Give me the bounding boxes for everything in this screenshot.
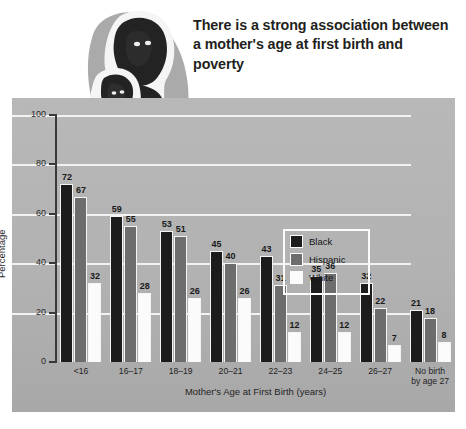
legend-item-hispanic: Hispanic — [290, 253, 368, 266]
bar-slot: 55 — [124, 115, 137, 362]
bar-white: 26 — [188, 298, 201, 362]
bar-value-label: 72 — [62, 172, 72, 182]
bar-group: 454026 — [206, 115, 256, 362]
page-title: There is a strong association between a … — [193, 16, 455, 74]
bar-white: 32 — [88, 283, 101, 362]
y-tick-0 — [49, 361, 56, 363]
bar-hispanic: 51 — [174, 236, 187, 362]
y-tick-label-100: 100 — [16, 109, 46, 119]
bar-black: 72 — [60, 184, 73, 362]
bar-value-label: 51 — [176, 224, 186, 234]
bar-white: 12 — [288, 332, 301, 362]
bar-value-label: 12 — [289, 320, 299, 330]
bar-value-label: 8 — [442, 330, 447, 340]
bar-value-label: 18 — [425, 306, 435, 316]
bar-slot: 21 — [410, 115, 423, 362]
bar-group: 21188 — [405, 115, 455, 362]
bar-white: 12 — [338, 332, 351, 362]
bar-value-label: 21 — [411, 298, 421, 308]
bar-group: 726732 — [56, 115, 106, 362]
legend-swatch-black-icon — [290, 235, 303, 248]
legend-label-hispanic: Hispanic — [309, 254, 345, 265]
y-tick-label-80: 80 — [16, 158, 46, 168]
y-tick-60 — [49, 213, 56, 215]
y-tick-40 — [49, 262, 56, 264]
bar-value-label: 43 — [261, 244, 271, 254]
y-tick-label-20: 20 — [16, 307, 46, 317]
bar-group: 535126 — [156, 115, 206, 362]
bar-slot: 26 — [238, 115, 251, 362]
y-axis-title: Percentage — [0, 229, 7, 278]
bar-hispanic: 67 — [74, 197, 87, 362]
bar-black: 53 — [160, 231, 173, 362]
y-tick-20 — [49, 312, 56, 314]
bar-value-label: 26 — [240, 286, 250, 296]
bar-slot: 45 — [210, 115, 223, 362]
chart-panel: 100 80 60 40 20 0 Percentage 72673259552… — [12, 98, 455, 412]
bar-slot: 53 — [160, 115, 173, 362]
legend-swatch-white-icon — [290, 271, 303, 284]
bar-value-label: 28 — [140, 281, 150, 291]
y-tick-label-60: 60 — [16, 208, 46, 218]
bar-slot: 28 — [138, 115, 151, 362]
y-tick-label-0: 0 — [16, 356, 46, 366]
legend-label-white: White — [309, 272, 333, 283]
bar-value-label: 53 — [162, 219, 172, 229]
bar-slot: 22 — [374, 115, 387, 362]
bar-white: 26 — [238, 298, 251, 362]
x-axis-title: Mother's Age at First Birth (years) — [56, 386, 455, 397]
legend-item-white: White — [290, 271, 368, 284]
legend: Black Hispanic White — [283, 229, 370, 295]
y-tick-label-40: 40 — [16, 257, 46, 267]
y-tick-100 — [49, 114, 56, 116]
bar-black: 21 — [410, 310, 423, 362]
bar-slot: 8 — [438, 115, 451, 362]
bar-slot: 59 — [110, 115, 123, 362]
bar-slot: 67 — [74, 115, 87, 362]
bar-value-label: 12 — [339, 320, 349, 330]
bar-black: 59 — [110, 216, 123, 362]
chart-page: There is a strong association between a … — [0, 0, 466, 429]
bar-value-label: 45 — [212, 239, 222, 249]
bar-value-label: 32 — [90, 271, 100, 281]
bar-slot: 40 — [224, 115, 237, 362]
bar-hispanic: 55 — [124, 226, 137, 362]
bar-slot: 32 — [88, 115, 101, 362]
legend-item-black: Black — [290, 235, 368, 248]
bar-value-label: 59 — [112, 204, 122, 214]
y-axis-tick-labels: 100 80 60 40 20 0 — [12, 98, 46, 398]
y-tick-80 — [49, 163, 56, 165]
bar-value-label: 22 — [375, 296, 385, 306]
bar-value-label: 26 — [190, 286, 200, 296]
bar-slot: 43 — [260, 115, 273, 362]
bar-black: 43 — [260, 256, 273, 362]
bar-slot: 72 — [60, 115, 73, 362]
bar-group: 595528 — [106, 115, 156, 362]
bar-white: 8 — [438, 342, 451, 362]
bar-hispanic: 18 — [424, 318, 437, 362]
bar-slot: 26 — [188, 115, 201, 362]
bar-value-label: 7 — [392, 333, 397, 343]
bar-groups: 7267325955285351264540264331123536123222… — [56, 115, 455, 362]
bar-slot: 18 — [424, 115, 437, 362]
bar-value-label: 67 — [76, 185, 86, 195]
bar-white: 7 — [388, 345, 401, 362]
bar-hispanic: 22 — [374, 308, 387, 362]
bar-hispanic: 40 — [224, 263, 237, 362]
bar-value-label: 40 — [226, 251, 236, 261]
bar-slot: 7 — [388, 115, 401, 362]
bar-white: 28 — [138, 293, 151, 362]
legend-swatch-hispanic-icon — [290, 253, 303, 266]
bar-slot: 51 — [174, 115, 187, 362]
bar-value-label: 55 — [126, 214, 136, 224]
legend-label-black: Black — [309, 236, 332, 247]
bar-black: 45 — [210, 251, 223, 362]
bar-hispanic: 31 — [274, 285, 287, 362]
